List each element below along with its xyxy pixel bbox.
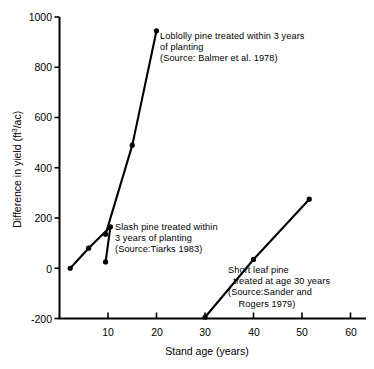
x-tick-label: 50 xyxy=(287,326,317,338)
y-tick-label: 800 xyxy=(6,61,52,73)
annotation-short-leaf-pine: Short leaf pine treated at age 30 years … xyxy=(228,265,330,310)
chart-figure: 1000 800 600 400 200 0 -200 10 20 30 40 … xyxy=(0,0,374,369)
annotation-slash-pine: Slash pine treated within 3 years of pla… xyxy=(115,222,218,256)
y-axis-title: Difference in yield (ft3/ac) xyxy=(11,79,24,259)
x-tick-label: 20 xyxy=(142,326,172,338)
y-tick-label: 0 xyxy=(6,263,52,275)
x-tick-label: 10 xyxy=(93,326,123,338)
y-axis-title-head: Difference in yield (ft xyxy=(11,132,23,228)
y-tick-label: 1000 xyxy=(6,11,52,23)
y-tick-label: -200 xyxy=(6,313,52,325)
x-tick-label: 60 xyxy=(336,326,366,338)
y-axis-title-exponent: 3 xyxy=(11,128,18,132)
y-axis-title-tail: /ac) xyxy=(11,111,23,129)
x-tick-label: 30 xyxy=(190,326,220,338)
x-tick-label: 40 xyxy=(239,326,269,338)
annotation-loblolly-pine: Loblolly pine treated within 3 years of … xyxy=(160,31,305,65)
x-axis-title: Stand age (years) xyxy=(112,345,302,357)
